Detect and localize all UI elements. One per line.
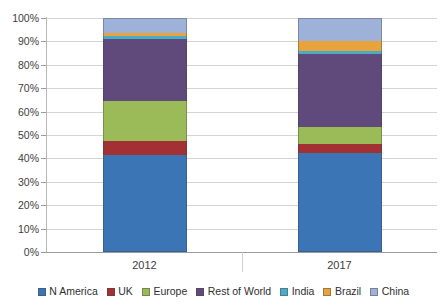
x-axis-label-2017: 2017 [280, 259, 400, 271]
bar-segment-india [103, 36, 187, 39]
legend-item-europe[interactable]: Europe [142, 286, 187, 297]
bar-segment-brazil [298, 41, 382, 50]
y-axis-tick [41, 135, 46, 136]
legend-label: Europe [153, 286, 187, 297]
legend-swatch-icon [196, 288, 204, 296]
y-axis-tick-label: 100% [0, 12, 39, 24]
bar-segment-n-america [298, 153, 382, 252]
legend-swatch-icon [38, 288, 46, 296]
legend-item-rest-of-world[interactable]: Rest of World [196, 286, 271, 297]
x-axis-label-2012: 2012 [85, 259, 205, 271]
bar-segment-china [298, 18, 382, 41]
legend-label: Rest of World [208, 286, 271, 297]
bar-segment-china [103, 18, 187, 33]
legend-item-china[interactable]: China [370, 286, 409, 297]
y-axis-tick [41, 112, 46, 113]
y-axis-tick [41, 205, 46, 206]
legend-swatch-icon [370, 288, 378, 296]
bar-segment-brazil [103, 33, 187, 36]
y-axis-tick-label: 40% [0, 152, 39, 164]
bar-segment-uk [103, 141, 187, 155]
y-axis-tick [41, 18, 46, 19]
y-axis-tick-label: 30% [0, 176, 39, 188]
y-axis-tick-label: 60% [0, 106, 39, 118]
y-axis-tick [41, 88, 46, 89]
y-axis-tick [41, 65, 46, 66]
stacked-bar-chart: 0%10%20%30%40%50%60%70%80%90%100% 201220… [0, 0, 447, 308]
bar-segment-n-america [103, 155, 187, 252]
legend-swatch-icon [280, 288, 288, 296]
bar-segment-india [298, 51, 382, 55]
bar-segment-rest-of-world [103, 39, 187, 101]
chart-legend: N AmericaUKEuropeRest of WorldIndiaBrazi… [0, 286, 447, 297]
legend-item-n-america[interactable]: N America [38, 286, 98, 297]
y-axis-tick [41, 229, 46, 230]
legend-label: UK [118, 286, 133, 297]
legend-label: Brazil [335, 286, 361, 297]
legend-item-brazil[interactable]: Brazil [323, 286, 361, 297]
legend-label: India [292, 286, 315, 297]
y-axis-tick [41, 252, 46, 253]
y-axis-tick-label: 70% [0, 82, 39, 94]
y-axis-tick-label: 50% [0, 129, 39, 141]
y-axis-tick [41, 182, 46, 183]
bar-segment-europe [298, 127, 382, 145]
category-divider [242, 252, 243, 272]
bar-2012 [103, 18, 187, 252]
legend-swatch-icon [107, 288, 115, 296]
bar-segment-uk [298, 144, 382, 152]
legend-item-uk[interactable]: UK [107, 286, 133, 297]
bar-2017 [298, 18, 382, 252]
y-axis-tick-label: 90% [0, 35, 39, 47]
y-axis-tick [41, 158, 46, 159]
legend-swatch-icon [323, 288, 331, 296]
y-axis-tick-label: 10% [0, 223, 39, 235]
bar-segment-rest-of-world [298, 54, 382, 127]
y-axis-tick-label: 0% [0, 246, 39, 258]
legend-item-india[interactable]: India [280, 286, 314, 297]
y-axis-tick [41, 41, 46, 42]
legend-label: N America [49, 286, 97, 297]
legend-swatch-icon [142, 288, 150, 296]
y-axis-tick-label: 80% [0, 59, 39, 71]
bar-segment-europe [103, 101, 187, 141]
legend-label: China [382, 286, 409, 297]
y-axis-tick-label: 20% [0, 199, 39, 211]
